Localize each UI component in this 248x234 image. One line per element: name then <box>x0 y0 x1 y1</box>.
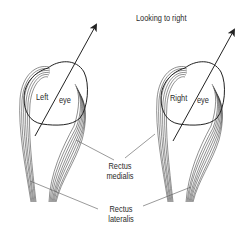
lateralis-leader-left <box>30 181 98 209</box>
rectus-medialis-label-line1: Rectus <box>95 161 144 171</box>
right-eye-label-word2: eye <box>197 95 209 105</box>
right-eye-rectus-medialis <box>157 66 187 202</box>
medialis-leader-left <box>76 140 114 160</box>
rectus-medialis-label-line2: medialis <box>95 171 144 181</box>
left-eye-label-word1: Left <box>36 92 48 102</box>
left-eye-group <box>20 25 96 202</box>
right-eye-group <box>157 30 234 202</box>
medialis-leader-right <box>125 134 155 158</box>
right-eye-label-word1: Right <box>170 93 187 103</box>
left-eye-rectus-lateralis <box>20 66 50 202</box>
rectus-lateralis-label-line2: lateralis <box>96 214 145 224</box>
rectus-lateralis-label-line1: Rectus <box>96 204 145 214</box>
diagram-title: Looking to right <box>136 13 186 23</box>
left-eye-label-word2: eye <box>59 95 71 105</box>
diagram-canvas <box>0 0 248 234</box>
